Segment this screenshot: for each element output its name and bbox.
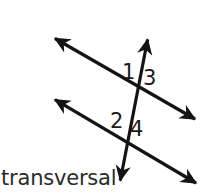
angle-label-3: 3 xyxy=(143,68,156,89)
transversal-diagram: 1 3 2 4 transversal xyxy=(0,0,213,196)
angle-label-4: 4 xyxy=(130,119,143,140)
angle-label-1: 1 xyxy=(122,62,135,83)
transversal-caption: transversal xyxy=(1,168,116,189)
angle-label-2: 2 xyxy=(110,111,123,132)
